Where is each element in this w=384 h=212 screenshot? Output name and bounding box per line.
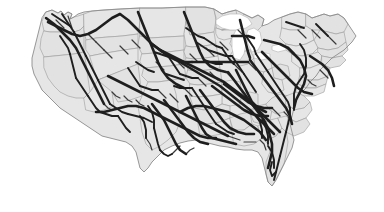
route-minor — [186, 148, 194, 154]
route-medium — [160, 150, 172, 156]
us-network-map-figure — [0, 0, 384, 212]
map-canvas — [0, 0, 384, 212]
